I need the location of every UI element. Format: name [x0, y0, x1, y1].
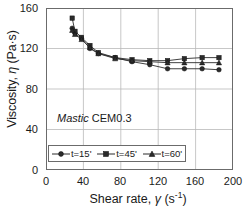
- data-point-square: [200, 55, 204, 59]
- legend-item-t60: t=60': [143, 148, 183, 159]
- y-tick-160: 160: [10, 3, 38, 14]
- annotation-material: Mastic: [57, 112, 89, 124]
- x-tick-200: 200: [218, 176, 248, 187]
- y-tick-0: 0: [10, 165, 38, 176]
- chart-legend: t=15' t=45' t=60': [48, 145, 186, 162]
- annotation-mix: CEM0.3: [92, 112, 132, 124]
- viscosity-shear-rate-chart: Viscosity, η (Pa·s) 160 120 80 40 0 0 40…: [0, 0, 249, 215]
- chart-annotation: Mastic CEM0.3: [57, 112, 132, 124]
- legend-item-t45: t=45': [97, 148, 137, 159]
- x-tick-160: 160: [180, 176, 210, 187]
- data-point-circle: [200, 66, 205, 71]
- square-marker-icon: [97, 149, 115, 159]
- legend-item-t15: t=15': [52, 148, 92, 159]
- data-point-circle: [182, 66, 187, 71]
- y-tick-40: 40: [10, 124, 38, 135]
- y-tick-120: 120: [10, 43, 38, 54]
- legend-label-t45: t=45': [116, 148, 137, 159]
- circle-marker-icon: [52, 149, 70, 159]
- data-point-square: [70, 16, 74, 20]
- data-point-circle: [217, 67, 222, 72]
- y-axis-label: Viscosity, η (Pa·s): [5, 0, 19, 159]
- data-point-circle: [165, 66, 170, 71]
- x-axis-label-unit-close: ): [182, 192, 186, 206]
- y-axis-label-main: Viscosity,: [5, 74, 19, 128]
- legend-label-t60: t=60': [162, 148, 183, 159]
- y-tick-80: 80: [10, 84, 38, 95]
- x-tick-120: 120: [143, 176, 173, 187]
- series-line-1: [72, 18, 219, 61]
- x-tick-80: 80: [105, 176, 135, 187]
- triangle-marker-icon: [143, 149, 161, 159]
- x-tick-0: 0: [31, 176, 61, 187]
- x-axis-label-main: Shear rate,: [89, 192, 154, 206]
- y-axis-label-symbol: η: [5, 67, 19, 74]
- x-axis-label: Shear rate, γ (s-1): [40, 192, 236, 206]
- x-axis-label-unit-open: (s: [161, 192, 175, 206]
- x-tick-40: 40: [68, 176, 98, 187]
- legend-label-t15: t=15': [71, 148, 92, 159]
- data-point-square: [217, 55, 221, 59]
